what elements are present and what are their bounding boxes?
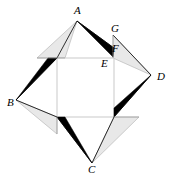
dark-triangle-right xyxy=(114,75,151,117)
vertex-label-e: E xyxy=(101,58,108,69)
vertex-label-f: F xyxy=(112,43,119,54)
geometry-figure: A B C D E F G xyxy=(0,0,178,182)
light-triangle-bottom-right xyxy=(92,117,139,163)
vertex-label-c: C xyxy=(88,164,95,175)
dark-triangle-bottom xyxy=(57,117,92,163)
figure-canvas xyxy=(0,0,178,182)
vertex-label-b: B xyxy=(7,97,14,108)
vertex-label-d: D xyxy=(157,71,165,82)
dark-triangle-left xyxy=(16,58,57,100)
vertex-label-g: G xyxy=(111,23,119,34)
vertex-label-a: A xyxy=(74,5,81,16)
dark-triangle-top xyxy=(77,21,114,57)
light-triangle-top-left xyxy=(37,21,77,58)
light-triangle-bottom-left xyxy=(16,100,57,134)
